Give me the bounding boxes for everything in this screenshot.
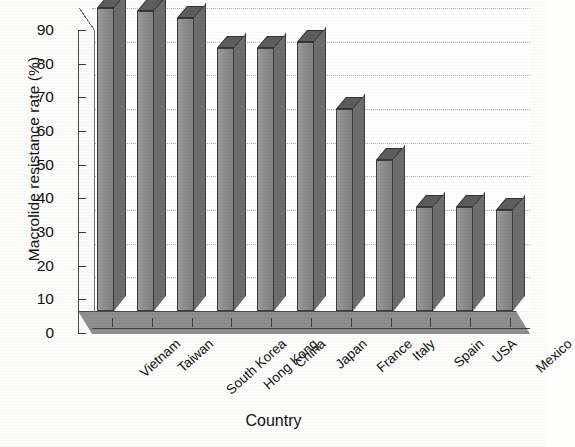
bar-front-face: [297, 42, 314, 311]
x-axis-tick-label: Vietnam: [137, 336, 184, 380]
bar-front-face: [336, 109, 353, 311]
x-axis-tick-label: Mexico: [533, 336, 575, 376]
x-axis-tick: [271, 318, 272, 327]
x-axis-tick-label: Italy: [409, 336, 437, 364]
chart-floor: [78, 311, 530, 334]
bar-front-face: [456, 207, 473, 311]
x-axis-tick-label: USA: [489, 336, 520, 366]
y-axis-tick-label: 60: [14, 122, 54, 140]
x-axis-tick: [430, 318, 431, 327]
bar-side-face: [154, 0, 166, 311]
y-axis-tick: [78, 97, 86, 98]
x-axis-tick: [311, 318, 312, 327]
bar-side-face: [473, 191, 485, 311]
bar-front-face: [217, 48, 234, 311]
x-axis-tick: [112, 318, 113, 327]
bar-side-face: [114, 0, 126, 311]
y-axis-tick-label: 80: [14, 55, 54, 73]
y-axis-tick-label: 20: [14, 257, 54, 275]
bar: [257, 48, 274, 311]
bar: [416, 207, 433, 311]
bar-side-face: [234, 33, 246, 311]
bar: [496, 210, 513, 311]
y-axis-tick-label: 70: [14, 88, 54, 106]
bar-front-face: [376, 160, 393, 312]
bar-front-face: [177, 18, 194, 311]
x-axis-tick-label: Taiwan: [175, 336, 216, 375]
y-axis-tick-label: 10: [14, 290, 54, 308]
y-axis-tick: [78, 131, 86, 132]
y-axis-tick: [78, 198, 86, 199]
y-axis-tick: [78, 232, 86, 233]
y-axis-tick: [78, 165, 86, 166]
bar: [297, 42, 314, 311]
bar-front-face: [416, 207, 433, 311]
x-axis-tick: [470, 318, 471, 327]
y-axis-tick-label: 50: [14, 156, 54, 174]
bar-side-face: [353, 94, 365, 311]
bar: [137, 11, 154, 311]
y-axis-tick-label: 40: [14, 189, 54, 207]
x-axis-tick: [231, 318, 232, 327]
x-axis-title: Country: [0, 412, 547, 430]
bar-side-face: [393, 144, 405, 311]
bar: [456, 207, 473, 311]
bar-side-face: [314, 26, 326, 311]
bar: [97, 8, 114, 311]
bar-side-face: [274, 33, 286, 311]
y-axis-tick-label: 30: [14, 223, 54, 241]
x-axis-tick: [192, 318, 193, 327]
bar: [376, 160, 393, 312]
x-axis-tick-label: France: [374, 336, 415, 375]
x-axis-tick: [351, 318, 352, 327]
x-axis-tick-label: Japan: [332, 336, 369, 372]
bar-side-face: [433, 191, 445, 311]
x-axis-tick-label: Spain: [451, 336, 487, 370]
bar-front-face: [97, 8, 114, 311]
bar: [217, 48, 234, 311]
plot-area: [78, 8, 530, 333]
y-axis-tick-label: 0: [14, 324, 54, 342]
y-axis-tick: [78, 333, 86, 334]
y-axis-tick: [78, 64, 86, 65]
bar: [336, 109, 353, 311]
bar-side-face: [513, 195, 525, 311]
x-axis-tick: [391, 318, 392, 327]
y-axis-tick: [78, 266, 86, 267]
bar: [177, 18, 194, 311]
bar-side-face: [194, 3, 206, 311]
y-axis-tick: [78, 30, 86, 31]
chart-floor-front-edge: [92, 328, 530, 329]
bar-front-face: [137, 11, 154, 311]
x-axis-tick-labels: VietnamTaiwanSouth KoreaHong KongChinaJa…: [78, 336, 530, 411]
bar-series: [92, 8, 530, 311]
bar-front-face: [496, 210, 513, 311]
x-axis-tick: [510, 318, 511, 327]
y-axis-tick: [78, 299, 86, 300]
bar-front-face: [257, 48, 274, 311]
y-axis-tick-label: 90: [14, 21, 54, 39]
x-axis-tick: [152, 318, 153, 327]
